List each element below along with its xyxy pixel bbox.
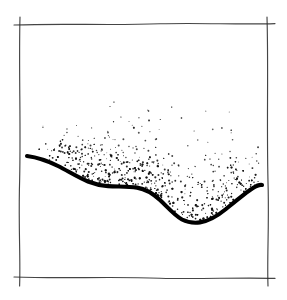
stipple-dot <box>108 183 109 184</box>
stipple-dot <box>81 153 83 155</box>
stipple-dot <box>192 216 193 217</box>
stipple-dot <box>52 157 54 159</box>
stipple-dot <box>70 165 72 167</box>
stipple-dot <box>238 162 239 163</box>
stipple-dot <box>135 169 137 171</box>
stipple-dot <box>124 179 125 180</box>
stipple-dot <box>134 167 136 169</box>
stipple-dot <box>256 160 257 161</box>
stipple-dot <box>207 193 208 194</box>
stipple-dot <box>174 180 176 182</box>
stipple-dot <box>85 155 86 156</box>
stipple-dot <box>105 176 106 177</box>
stipple-dot <box>114 168 115 169</box>
stipple-dot <box>231 130 232 131</box>
stipple-dot <box>241 180 242 181</box>
stipple-dot <box>168 153 170 155</box>
stipple-dot <box>84 146 86 148</box>
stipple-dot <box>258 163 259 164</box>
stipple-dot <box>66 132 68 134</box>
stipple-dot <box>161 191 162 192</box>
stipple-dot <box>67 151 69 153</box>
stipple-dot <box>91 127 92 128</box>
stipple-dot <box>82 175 84 177</box>
stipple-dot <box>153 161 154 162</box>
stipple-dot <box>108 173 110 175</box>
stipple-dot <box>109 179 111 181</box>
stipple-dot <box>151 161 153 163</box>
stipple-dot <box>122 178 124 180</box>
figure-background <box>0 0 287 300</box>
stipple-dot <box>84 176 86 178</box>
stipple-dot <box>171 196 172 197</box>
stipple-dot <box>150 180 152 182</box>
stipple-dot <box>187 204 189 206</box>
stipple-dot <box>166 189 167 190</box>
stipple-dot <box>98 154 99 155</box>
stipple-dot <box>216 199 218 201</box>
stipple-dot <box>135 178 136 179</box>
stipple-dot <box>253 182 254 183</box>
stipple-dot <box>126 172 128 174</box>
stipple-dot <box>149 166 150 167</box>
stipple-dot <box>246 183 247 184</box>
stipple-dot <box>230 165 231 166</box>
stipple-dot <box>214 171 215 172</box>
stipple-dot <box>167 172 169 174</box>
stipple-dot <box>163 158 164 159</box>
stipple-dot <box>231 193 232 194</box>
stipple-dot <box>94 138 95 139</box>
stipple-dot <box>127 161 129 163</box>
stipple-dot <box>135 171 136 172</box>
stipple-dot <box>42 127 43 128</box>
stipple-dot <box>100 166 101 167</box>
stipple-dot <box>135 184 137 186</box>
stipple-dot <box>207 187 208 188</box>
stipple-dot <box>257 146 259 148</box>
stipple-dot <box>71 169 72 170</box>
stipple-dot <box>93 176 94 177</box>
stipple-dot <box>139 157 140 158</box>
stipple-dot <box>74 168 76 170</box>
stipple-dot <box>81 144 83 146</box>
stipple-dot <box>154 183 155 184</box>
stipple-dot <box>168 170 169 171</box>
stipple-dot <box>225 197 226 198</box>
stipple-dot <box>207 142 208 143</box>
stipple-dot <box>221 186 222 187</box>
stipple-dot <box>200 183 201 184</box>
stipple-dot <box>57 156 59 158</box>
stipple-dot <box>79 167 80 168</box>
stipple-dot <box>243 186 244 187</box>
stipple-dot <box>124 182 125 183</box>
stipple-dot <box>85 168 87 170</box>
stipple-dot <box>101 181 102 182</box>
stipple-dot <box>223 193 224 194</box>
stipple-dot <box>250 186 251 187</box>
stipple-dot <box>145 176 147 178</box>
stipple-dot <box>157 189 159 191</box>
stipple-dot <box>236 170 237 171</box>
stipple-dot <box>169 203 171 205</box>
stipple-dot <box>138 132 140 134</box>
stipple-dot <box>198 182 199 183</box>
stipple-dot <box>201 209 202 210</box>
stipple-dot <box>177 199 179 201</box>
stipple-dot <box>229 111 230 112</box>
stipple-dot <box>232 139 234 141</box>
stipple-dot <box>121 174 123 176</box>
stipple-dot <box>206 216 208 218</box>
stipple-dot <box>230 157 232 159</box>
stipple-dot <box>76 171 77 172</box>
stipple-dot <box>138 117 140 119</box>
stipple-dot <box>110 155 112 157</box>
stipple-dot <box>150 187 152 189</box>
stipple-dot <box>240 189 241 190</box>
stipple-dot <box>109 164 111 166</box>
stipple-dot <box>170 172 171 173</box>
stipple-dot <box>72 159 74 161</box>
stipple-dot <box>171 155 173 157</box>
stipple-dot <box>61 147 63 149</box>
stipple-dot <box>209 158 210 159</box>
stipple-dot <box>104 164 106 166</box>
